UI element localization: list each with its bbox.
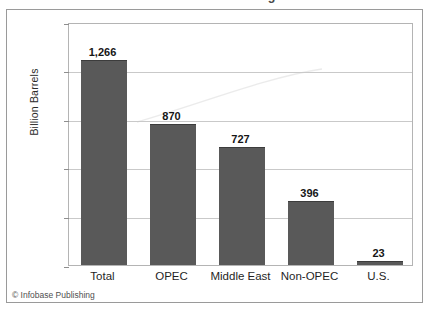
bar-value-label: 23 (339, 247, 419, 259)
publisher-credit: © Infobase Publishing (12, 290, 95, 300)
y-tick-mark (64, 72, 69, 73)
bar-value-label: 1,266 (63, 46, 143, 58)
bar[interactable] (357, 261, 403, 265)
bar[interactable] (219, 147, 265, 265)
chart-title: World Oil Reserves through 2011 (0, 0, 430, 3)
x-tick-label: U.S. (329, 270, 429, 282)
bar[interactable] (81, 60, 127, 265)
bar-value-label: 870 (132, 110, 212, 122)
bar[interactable] (288, 201, 334, 265)
y-tick-mark (64, 169, 69, 170)
y-tick-mark (64, 121, 69, 122)
bar-value-label: 727 (201, 133, 281, 145)
chart-figure: World Oil Reserves through 2011 Billion … (0, 0, 430, 312)
y-tick-mark (64, 218, 69, 219)
y-axis-title: Billion Barrels (28, 42, 40, 162)
y-tick-mark (64, 24, 69, 25)
bar[interactable] (150, 124, 196, 265)
y-tick-mark (64, 267, 69, 268)
bar-value-label: 396 (270, 187, 350, 199)
